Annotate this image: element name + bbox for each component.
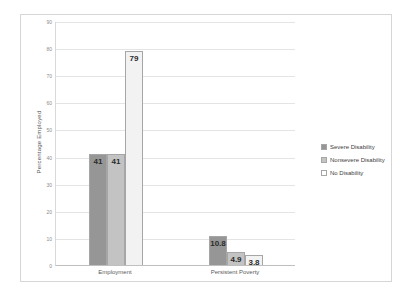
x-axis-category-label: Persistent Poverty: [211, 269, 260, 275]
y-axis-tick-label: 60: [33, 101, 52, 106]
chart-container: Percentage Employed 0102030405060708090 …: [0, 0, 410, 296]
y-axis-tick-label: 70: [33, 74, 52, 79]
bar-group: 10.84.93.8: [176, 22, 296, 265]
bar-value-label: 79: [126, 55, 142, 63]
legend-swatch-icon: [321, 170, 327, 176]
y-axis-tick-label: 10: [33, 236, 52, 241]
legend-label: No Disability: [330, 170, 363, 176]
y-axis-tick-label: 50: [33, 128, 52, 133]
plot-area: 41417910.84.93.8: [55, 22, 295, 266]
bar-group: 414179: [56, 22, 176, 265]
bar-value-label: 10.8: [210, 240, 226, 248]
legend-item[interactable]: No Disability: [321, 169, 409, 177]
bar-value-label: 4.9: [228, 256, 244, 264]
bar[interactable]: 10.8: [209, 236, 227, 265]
bar[interactable]: 41: [107, 154, 125, 265]
legend-item[interactable]: Severe Disability: [321, 143, 409, 151]
bar-value-label: 41: [90, 158, 106, 166]
bars-layer: 41417910.84.93.8: [56, 22, 295, 265]
y-axis-tick-label: 40: [33, 155, 52, 160]
legend-swatch-icon: [321, 144, 327, 150]
bar[interactable]: 79: [125, 51, 143, 265]
y-axis-tick-label: 90: [33, 20, 52, 25]
chart-frame: Percentage Employed 0102030405060708090 …: [20, 14, 392, 282]
x-axis-tick-labels: EmploymentPersistent Poverty: [55, 269, 295, 283]
x-axis-category-label: Employment: [98, 269, 131, 275]
y-axis-tick-label: 0: [33, 264, 52, 269]
bar[interactable]: 3.8: [245, 255, 263, 265]
legend-item[interactable]: Nonsevere Disability: [321, 156, 409, 164]
y-axis-tick-labels: 0102030405060708090: [33, 22, 52, 266]
legend-swatch-icon: [321, 157, 327, 163]
bar[interactable]: 41: [89, 154, 107, 265]
legend-label: Severe Disability: [330, 144, 375, 150]
y-axis-tick-label: 80: [33, 47, 52, 52]
bar-value-label: 3.8: [246, 259, 262, 267]
y-axis-tick-label: 30: [33, 182, 52, 187]
legend-label: Nonsevere Disability: [330, 157, 385, 163]
y-axis-tick-label: 20: [33, 209, 52, 214]
bar-value-label: 41: [108, 158, 124, 166]
chart-legend: Severe DisabilityNonsevere DisabilityNo …: [321, 143, 409, 182]
bar[interactable]: 4.9: [227, 252, 245, 265]
